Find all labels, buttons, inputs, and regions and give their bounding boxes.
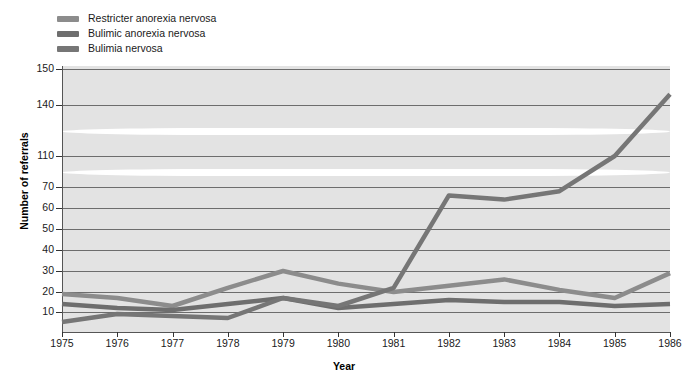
series-lines xyxy=(0,0,688,385)
x-axis-title: Year xyxy=(0,360,688,372)
series-line xyxy=(62,271,670,306)
y-axis-title: Number of referrals xyxy=(18,101,30,261)
line-chart: Restricter anorexia nervosa Bulimic anor… xyxy=(0,0,688,385)
